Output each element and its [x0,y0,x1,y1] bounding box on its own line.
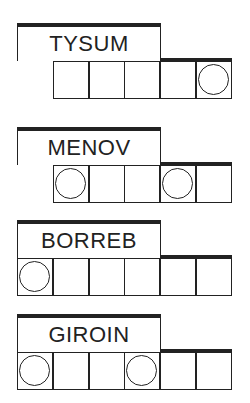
scrambled-word: MENOV [17,127,161,165]
letter-cell[interactable] [160,258,196,296]
letter-cell[interactable] [196,258,232,296]
letter-cell[interactable] [124,165,160,203]
letter-cell[interactable] [89,258,125,296]
circle-marker-icon [19,355,50,386]
jumble-puzzle-3: BORREB [17,220,232,296]
letter-cell[interactable] [160,165,196,203]
scrambled-word: GIROIN [17,314,161,352]
letter-cell[interactable] [89,61,125,99]
letter-cell[interactable] [89,165,125,203]
letter-cell[interactable] [17,258,53,296]
letter-cell[interactable] [160,352,196,390]
letter-cell[interactable] [124,258,160,296]
letter-cell[interactable] [89,352,125,390]
letter-cell[interactable] [17,352,53,390]
letter-cell[interactable] [53,61,89,99]
letter-cell[interactable] [53,352,89,390]
circle-marker-icon [162,168,193,199]
letter-cell[interactable] [53,258,89,296]
letter-cell[interactable] [196,352,232,390]
scrambled-word: BORREB [17,220,161,258]
jumble-puzzle-4: GIROIN [17,314,232,390]
letter-cell[interactable] [196,61,232,99]
letter-cell[interactable] [124,61,160,99]
jumble-puzzle-2: MENOV [17,127,232,203]
circle-marker-icon [55,168,86,199]
jumble-puzzle-1: TYSUM [17,23,232,99]
letter-cell[interactable] [124,352,160,390]
circle-marker-icon [198,64,229,95]
scrambled-word: TYSUM [17,23,161,61]
letter-cell[interactable] [196,165,232,203]
circle-marker-icon [19,261,50,292]
letter-cell[interactable] [160,61,196,99]
letter-cell[interactable] [53,165,89,203]
circle-marker-icon [126,355,157,386]
